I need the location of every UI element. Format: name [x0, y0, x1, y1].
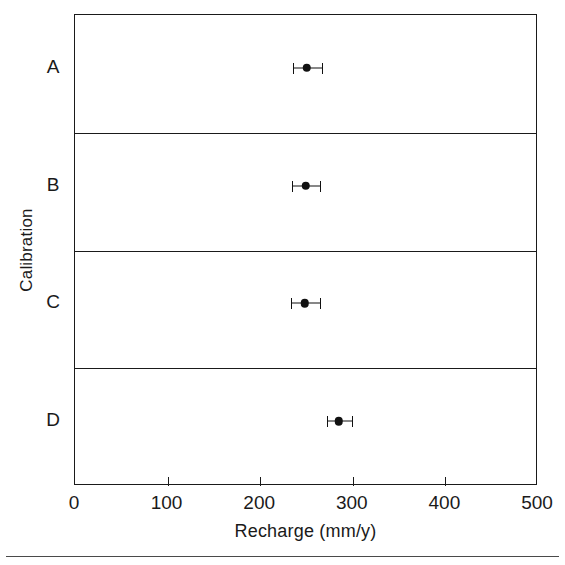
x-tick-label-0: 0: [39, 492, 109, 514]
x-tick-label-400: 400: [409, 492, 479, 514]
category-label-d: D: [40, 409, 66, 431]
x-tick-400: [445, 477, 446, 486]
x-tick-100: [168, 477, 169, 486]
error-cap-low: [292, 181, 293, 192]
panel-divider: [75, 368, 536, 369]
x-tick-200: [260, 477, 261, 486]
data-point-a: [302, 64, 311, 73]
panel-divider: [75, 251, 536, 252]
error-cap-high: [352, 416, 353, 427]
x-tick-label-500: 500: [502, 492, 565, 514]
error-cap-high: [320, 298, 321, 309]
error-cap-high: [320, 181, 321, 192]
x-tick-label-100: 100: [132, 492, 202, 514]
x-axis-title: Recharge (mm/y): [74, 521, 537, 542]
category-label-b: B: [40, 174, 66, 196]
panel-divider: [75, 133, 536, 134]
category-label-a: A: [40, 56, 66, 78]
x-tick-300: [353, 477, 354, 486]
bottom-rule: [6, 556, 559, 557]
error-cap-low: [291, 298, 292, 309]
x-tick-label-300: 300: [317, 492, 387, 514]
data-point-c: [300, 299, 309, 308]
plot-area: [74, 14, 537, 485]
y-axis-title: Calibration: [17, 140, 37, 360]
error-cap-low: [327, 416, 328, 427]
error-cap-low: [293, 63, 294, 74]
data-point-b: [301, 181, 310, 190]
recharge-calibration-figure: Calibration Recharge (mm/y) ABCD01002003…: [0, 0, 565, 565]
category-label-c: C: [40, 291, 66, 313]
error-cap-high: [322, 63, 323, 74]
x-tick-label-200: 200: [224, 492, 294, 514]
data-point-d: [335, 417, 344, 426]
